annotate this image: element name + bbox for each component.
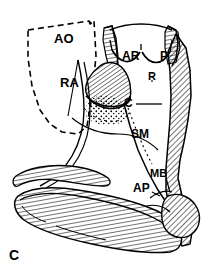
label-r: R xyxy=(148,71,156,82)
label-sm: SM xyxy=(131,128,149,140)
diagram-artwork xyxy=(0,0,222,277)
label-ap: AP xyxy=(133,182,150,194)
label-ao: AO xyxy=(54,32,74,45)
label-ra: RA xyxy=(60,76,79,89)
anatomical-diagram-panel-c: AO RA AR P R C SM MB AP C xyxy=(0,0,222,277)
label-c: C xyxy=(124,97,133,109)
label-ar: AR xyxy=(122,50,139,62)
label-p: P xyxy=(160,50,168,62)
label-mb: MB xyxy=(150,168,167,179)
panel-label: C xyxy=(9,248,19,262)
